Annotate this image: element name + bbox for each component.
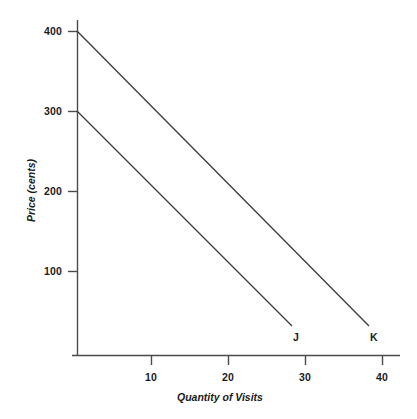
demand-curve-j [78, 112, 293, 327]
series-label-k: K [370, 332, 378, 343]
y-tick-label-400: 400 [26, 26, 62, 37]
x-tick-label-20: 20 [208, 372, 248, 383]
plot-area [0, 0, 417, 419]
series-label-j: J [293, 332, 299, 343]
x-tick-label-40: 40 [362, 372, 402, 383]
y-tick-label-100: 100 [26, 266, 62, 277]
y-tick-label-300: 300 [26, 106, 62, 117]
x-tick-label-30: 30 [285, 372, 325, 383]
y-axis-title: Price (cents) [26, 159, 37, 222]
demand-curve-k [78, 32, 370, 327]
x-tick-label-10: 10 [131, 372, 171, 383]
demand-curve-chart: 400 300 200 100 10 20 30 40 J K Price (c… [0, 0, 417, 419]
x-axis-title: Quantity of Visits [177, 392, 263, 403]
